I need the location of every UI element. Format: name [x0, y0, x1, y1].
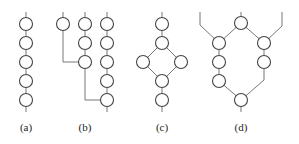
- node: [79, 37, 92, 50]
- node: [175, 56, 188, 69]
- label-d: (d): [235, 121, 248, 134]
- node: [156, 18, 169, 31]
- node: [258, 37, 271, 50]
- subfigure-c: [137, 12, 188, 112]
- node: [101, 94, 114, 107]
- node: [137, 56, 150, 69]
- node: [156, 37, 169, 50]
- diagram: (a) (b) (c) (d): [0, 0, 299, 144]
- node: [213, 75, 226, 88]
- subfigure-b: [57, 12, 114, 112]
- node: [20, 18, 33, 31]
- node: [235, 94, 248, 107]
- subfigure-a: [20, 12, 33, 112]
- node: [79, 56, 92, 69]
- node: [258, 56, 271, 69]
- label-b: (b): [79, 121, 92, 134]
- node: [20, 37, 33, 50]
- node: [156, 94, 169, 107]
- node: [156, 75, 169, 88]
- node: [213, 56, 226, 69]
- node: [57, 18, 70, 31]
- node: [20, 94, 33, 107]
- subfigure-d: [200, 12, 282, 112]
- node: [101, 75, 114, 88]
- label-c: (c): [156, 121, 169, 134]
- node: [101, 37, 114, 50]
- node: [213, 37, 226, 50]
- node: [20, 56, 33, 69]
- node: [79, 18, 92, 31]
- node: [101, 18, 114, 31]
- label-a: (a): [20, 121, 33, 134]
- node: [235, 17, 248, 30]
- node: [20, 75, 33, 88]
- node: [101, 56, 114, 69]
